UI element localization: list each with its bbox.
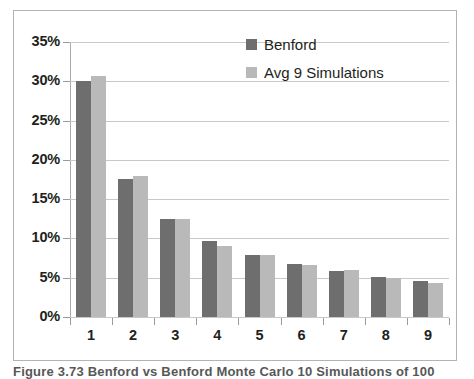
y-axis-tick-label-wrap: 15% — [0, 190, 60, 204]
gridline — [70, 317, 449, 318]
y-axis-tick-label-wrap: 10% — [0, 229, 60, 243]
x-axis-tick — [281, 318, 282, 325]
x-axis-tick — [238, 318, 239, 325]
y-axis-tick-label: 5% — [14, 269, 60, 285]
bar — [371, 277, 386, 317]
y-axis-tick-label-wrap: 35% — [0, 33, 60, 47]
bar — [160, 219, 175, 317]
y-axis-tick — [63, 199, 70, 200]
bar — [245, 255, 260, 317]
chart-legend: Benford Avg 9 Simulations — [246, 30, 426, 86]
y-axis-tick-label: 20% — [14, 151, 60, 167]
x-axis-tick-label: 3 — [155, 327, 195, 343]
x-axis-tick — [407, 318, 408, 325]
x-axis-tick-label: 9 — [408, 327, 448, 343]
bar — [118, 179, 133, 317]
x-axis-tick — [365, 318, 366, 325]
bar — [76, 81, 91, 318]
bar — [413, 281, 428, 317]
x-axis-tick-label: 1 — [71, 327, 111, 343]
x-axis-tick — [449, 318, 450, 325]
y-axis-tick — [63, 81, 70, 82]
y-axis-tick-label: 35% — [14, 33, 60, 49]
x-axis-tick-label: 8 — [366, 327, 406, 343]
y-axis-tick — [63, 317, 70, 318]
x-axis-tick-label: 7 — [324, 327, 364, 343]
legend-item-benford: Benford — [246, 30, 426, 58]
x-axis-tick — [70, 318, 71, 325]
y-axis-tick — [63, 278, 70, 279]
bar — [133, 176, 148, 317]
bar-group — [160, 42, 190, 317]
bar — [91, 76, 106, 317]
y-axis-tick — [63, 121, 70, 122]
legend-label-benford: Benford — [264, 36, 317, 53]
y-axis-tick-label: 10% — [14, 229, 60, 245]
y-axis-tick — [63, 160, 70, 161]
y-axis-tick — [63, 42, 70, 43]
x-axis-tick — [323, 318, 324, 325]
y-axis-tick-label-wrap: 20% — [0, 151, 60, 165]
bar — [202, 241, 217, 317]
y-axis-tick — [63, 238, 70, 239]
figure-caption: Figure 3.73 Benford vs Benford Monte Car… — [13, 367, 463, 379]
bar — [344, 270, 359, 317]
legend-item-avg-9-simulations: Avg 9 Simulations — [246, 58, 426, 86]
x-axis-tick-label: 6 — [282, 327, 322, 343]
y-axis-tick-label: 0% — [14, 308, 60, 324]
y-axis-tick-label-wrap: 5% — [0, 269, 60, 283]
y-axis-tick-label-wrap: 0% — [0, 308, 60, 322]
legend-swatch-avg-9-simulations — [246, 67, 257, 78]
bar — [287, 264, 302, 317]
bar — [302, 265, 317, 317]
x-axis-tick-label: 2 — [113, 327, 153, 343]
bar — [217, 246, 232, 317]
bar-chart: 0%5%10%15%20%25%30%35% 123456789 Benford… — [0, 0, 474, 379]
y-axis-tick-label-wrap: 25% — [0, 112, 60, 126]
bar-group — [118, 42, 148, 317]
y-axis-tick-label: 25% — [14, 112, 60, 128]
x-axis-tick — [112, 318, 113, 325]
y-axis-tick-label: 30% — [14, 72, 60, 88]
figure-caption-text: Figure 3.73 Benford vs Benford Monte Car… — [13, 367, 435, 379]
x-axis-tick — [196, 318, 197, 325]
x-axis-tick — [154, 318, 155, 325]
legend-label-avg-9-simulations: Avg 9 Simulations — [264, 64, 384, 81]
x-axis-tick-label: 4 — [197, 327, 237, 343]
y-axis-tick-label: 15% — [14, 190, 60, 206]
x-axis-tick-label: 5 — [240, 327, 280, 343]
legend-swatch-benford — [246, 39, 257, 50]
bar-group — [202, 42, 232, 317]
bar-group — [76, 42, 106, 317]
bar — [386, 278, 401, 317]
y-axis-tick-label-wrap: 30% — [0, 72, 60, 86]
bar — [329, 271, 344, 317]
bar — [260, 255, 275, 317]
bar — [428, 283, 443, 317]
bar — [175, 219, 190, 317]
